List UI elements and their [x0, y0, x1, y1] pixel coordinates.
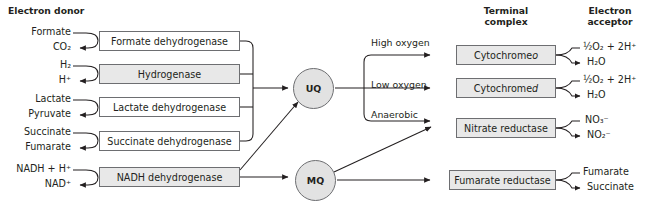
- terminal-box-cytochrome-d[interactable]: Cytochrome d: [456, 78, 556, 98]
- acceptor-in-cytochrome-d: ½O₂ + 2H⁺: [583, 75, 636, 85]
- pathway-diagram: Electron donor Terminal complex Electron…: [0, 0, 649, 211]
- enzyme-box-nadh-dehydrogenase[interactable]: NADH dehydrogenase: [99, 167, 240, 187]
- quinone-node-uq[interactable]: UQ: [293, 68, 334, 109]
- enzyme-box-lactate-dehydrogenase[interactable]: Lactate dehydrogenase: [99, 97, 240, 117]
- donor-substrate-lactate: Lactate: [0, 94, 71, 104]
- terminal-box-cytochrome-d-base: Cytochrome: [474, 83, 532, 94]
- enzyme-box-succinate-dehydrogenase[interactable]: Succinate dehydrogenase: [99, 131, 240, 151]
- terminal-box-cytochrome-o[interactable]: Cytochrome o: [456, 45, 556, 65]
- quinone-node-mq[interactable]: MQ: [295, 160, 336, 201]
- terminal-box-nitrate-reductase[interactable]: Nitrate reductase: [456, 118, 556, 138]
- acceptor-in-nitrate-reductase: NO₃⁻: [585, 115, 609, 125]
- acceptor-in-fumarate-reductase: Fumarate: [583, 167, 629, 177]
- enzyme-box-hydrogenase[interactable]: Hydrogenase: [99, 64, 240, 84]
- terminal-box-cytochrome-o-base: Cytochrome: [474, 50, 532, 61]
- donor-product-fumarate: Fumarate: [0, 142, 71, 152]
- terminal-box-cytochrome-o-italic: o: [532, 50, 538, 61]
- donor-product-h-plus: H⁺: [0, 75, 71, 85]
- terminal-box-cytochrome-d-italic: d: [532, 83, 538, 94]
- enzyme-box-formate-dehydrogenase[interactable]: Formate dehydrogenase: [99, 31, 240, 51]
- acceptor-out-fumarate-reductase: Succinate: [587, 182, 634, 192]
- condition-label-high-oxygen: High oxygen: [371, 38, 430, 48]
- acceptor-out-cytochrome-d: H₂O: [587, 90, 606, 100]
- header-terminal-complex-line2: complex: [456, 17, 556, 28]
- acceptor-out-cytochrome-o: H₂O: [587, 57, 606, 67]
- donor-product-nad-plus: NAD⁺: [0, 179, 71, 189]
- terminal-box-fumarate-reductase[interactable]: Fumarate reductase: [449, 170, 556, 190]
- donor-substrate-nadh: NADH + H⁺: [0, 164, 71, 174]
- condition-label-anaerobic: Anaerobic: [371, 110, 418, 120]
- donor-product-co2: CO₂: [0, 42, 71, 52]
- header-electron-acceptor: Electron acceptor: [576, 6, 644, 28]
- header-terminal-complex: Terminal complex: [456, 6, 556, 28]
- donor-substrate-succinate: Succinate: [0, 127, 71, 137]
- donor-substrate-formate: Formate: [0, 27, 71, 37]
- acceptor-in-cytochrome-o: ½O₂ + 2H⁺: [583, 42, 636, 52]
- header-electron-acceptor-line2: acceptor: [576, 17, 644, 28]
- header-electron-donor: Electron donor: [8, 6, 84, 17]
- condition-label-low-oxygen: Low oxygen: [371, 80, 427, 90]
- donor-substrate-h2: H₂: [0, 60, 71, 70]
- donor-product-pyruvate: Pyruvate: [0, 109, 71, 119]
- acceptor-out-nitrate-reductase: NO₂⁻: [587, 130, 611, 140]
